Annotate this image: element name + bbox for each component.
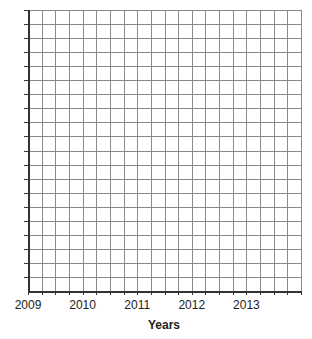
x-tick-label: 2013 [233,298,260,312]
x-tick-label: 2011 [124,298,150,312]
x-tick-label: 2012 [178,298,205,312]
x-axis-title: Years [148,318,180,332]
x-axis-tick-labels: 20092010201120122013 [15,298,260,312]
x-tick-label: 2009 [15,298,42,312]
y-axis-ticks [24,11,28,278]
chart: 20092010201120122013 Years [0,0,312,339]
x-axis-ticks [29,291,302,295]
grid [28,10,302,291]
x-tick-label: 2010 [69,298,96,312]
